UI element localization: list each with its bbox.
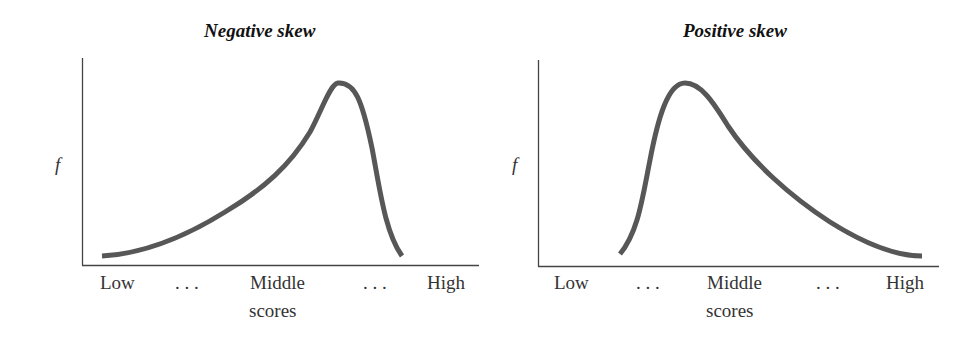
right-tick-dots-2: . . . <box>816 272 840 294</box>
right-x-label: scores <box>706 300 753 322</box>
left-chart-title: Negative skew <box>204 20 315 42</box>
left-x-label: scores <box>249 300 296 322</box>
left-chart-panel: Negative skew f Low . . . Middle . . . H… <box>0 0 490 337</box>
right-chart-panel: Positive skew f Low . . . Middle . . . H… <box>490 0 980 337</box>
left-tick-low: Low <box>100 272 135 294</box>
right-tick-high: High <box>886 272 924 294</box>
left-tick-middle: Middle <box>250 272 305 294</box>
right-tick-low: Low <box>554 272 589 294</box>
left-tick-dots-2: . . . <box>363 272 387 294</box>
right-tick-dots-1: . . . <box>636 272 660 294</box>
left-tick-dots-1: . . . <box>175 272 199 294</box>
right-y-label: f <box>512 154 517 176</box>
right-chart-title: Positive skew <box>683 20 787 42</box>
left-y-label: f <box>55 154 60 176</box>
right-tick-middle: Middle <box>707 272 762 294</box>
left-tick-high: High <box>427 272 465 294</box>
